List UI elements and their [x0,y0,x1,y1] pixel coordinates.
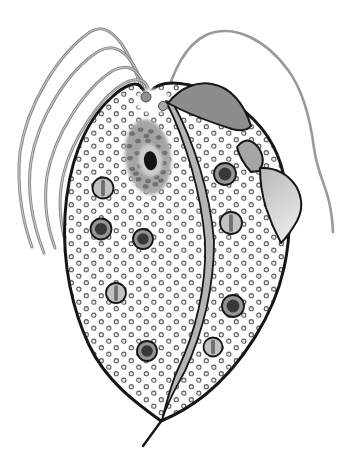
dark-granule [214,163,236,185]
dark-granule [222,295,244,317]
dark-granule [91,219,112,240]
basal-body [141,92,151,102]
protozoan-cell-diagram [0,0,353,472]
striped-granule [220,212,242,234]
axostyle-spike [143,420,162,446]
figure-container [0,0,353,472]
striped-granule [204,338,223,357]
striped-granule [93,178,114,199]
dark-granule [133,229,153,249]
basal-body [159,102,168,111]
striped-granule [106,283,126,303]
dark-granule [137,341,157,361]
